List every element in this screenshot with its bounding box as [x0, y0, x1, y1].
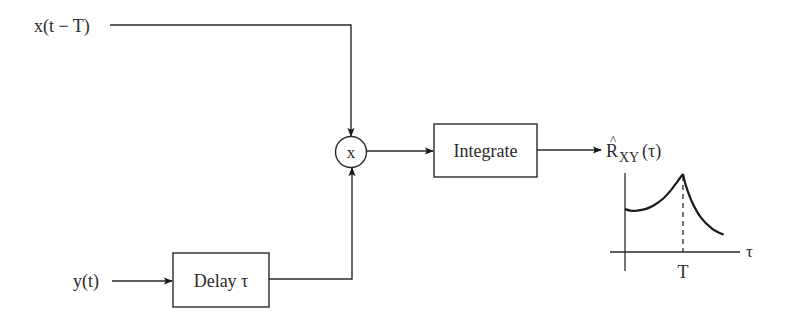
integrate-block: Integrate: [434, 124, 537, 177]
delay-to-multiplier-wire: [269, 168, 352, 279]
y-input-label: y(t): [73, 271, 99, 292]
delay-label: Delay τ: [194, 271, 249, 291]
x-input-wire: [110, 25, 351, 136]
correlation-plot: τ T: [610, 173, 753, 282]
output-label: ^ R XY (τ): [606, 132, 661, 165]
output-symbol: R: [606, 141, 618, 161]
plot-series-line: [625, 174, 724, 235]
x-input-label: x(t − T): [34, 16, 90, 37]
multiplier-node: x: [336, 137, 367, 168]
output-argument: (τ): [642, 141, 661, 162]
output-subscript: XY: [619, 150, 639, 165]
block-diagram: x(t − T) x Integrate ^ R XY (τ) y(t) Del…: [0, 0, 790, 322]
delay-block: Delay τ: [173, 253, 269, 307]
plot-peak-tick-label: T: [678, 262, 689, 282]
plot-x-axis-label: τ: [746, 242, 753, 261]
multiplier-symbol: x: [347, 143, 356, 162]
integrate-label: Integrate: [454, 141, 518, 161]
